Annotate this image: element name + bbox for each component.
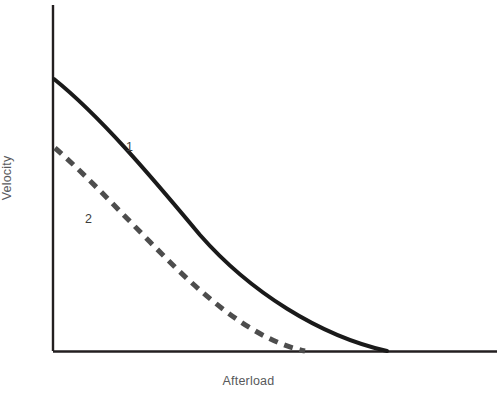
curve-2-dashed (55, 148, 305, 351)
force-velocity-chart: Velocity Afterload 1 2 (0, 0, 497, 396)
x-axis-label: Afterload (0, 374, 497, 388)
curve-1-label: 1 (126, 140, 133, 154)
chart-plot-area (0, 0, 497, 396)
y-axis-label: Velocity (0, 156, 14, 201)
y-axis-label-text: Velocity (0, 156, 14, 201)
curve-2-label: 2 (85, 212, 92, 226)
